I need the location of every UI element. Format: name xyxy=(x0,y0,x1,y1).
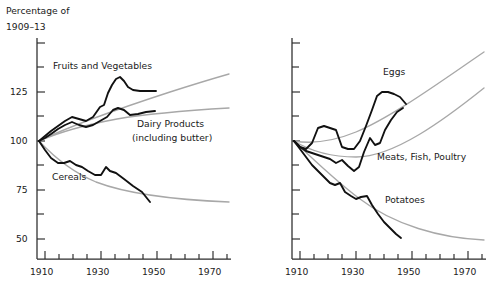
series-eggs xyxy=(294,92,406,149)
right-chart-panel: 1910 1930 1950 1970 Eggs Meats, Fish, Po… xyxy=(285,38,486,277)
right-x-tick-label-1950: 1950 xyxy=(397,266,421,277)
annotation-dairy-products-line2: (including butter) xyxy=(132,132,212,143)
left-x-tick-label-1950: 1950 xyxy=(142,266,166,277)
left-x-ticks xyxy=(45,251,227,259)
left-x-tick-label-1970: 1970 xyxy=(198,266,222,277)
right-x-tick-label-1910: 1910 xyxy=(285,266,309,277)
left-chart-panel: Percentage of 1909–13 125 100 75 50 xyxy=(6,5,231,277)
food-consumption-figure: Percentage of 1909–13 125 100 75 50 xyxy=(0,0,490,296)
annotation-cereals: Cereals xyxy=(52,171,86,182)
left-x-tick-label-1910: 1910 xyxy=(30,266,54,277)
y-axis-title-line1: Percentage of xyxy=(6,5,70,16)
annotation-fruits-and-vegetables: Fruits and Vegetables xyxy=(53,60,152,71)
annotation-meats-fish-poultry: Meats, Fish, Poultry xyxy=(377,151,467,162)
left-x-tick-label-1930: 1930 xyxy=(86,266,110,277)
left-y-tick-label-100: 100 xyxy=(10,135,28,146)
right-x-ticks xyxy=(300,251,482,259)
right-x-tick-label-1970: 1970 xyxy=(453,266,477,277)
y-axis-title-line2: 1909–13 xyxy=(6,21,46,32)
left-y-tick-label-125: 125 xyxy=(10,86,28,97)
left-y-tick-label-50: 50 xyxy=(16,233,28,244)
right-x-tick-label-1930: 1930 xyxy=(341,266,365,277)
annotation-potatoes: Potatoes xyxy=(385,194,425,205)
left-y-tick-label-75: 75 xyxy=(16,184,28,195)
annotation-eggs: Eggs xyxy=(383,66,405,77)
annotation-dairy-products-line1: Dairy Products xyxy=(137,118,204,129)
